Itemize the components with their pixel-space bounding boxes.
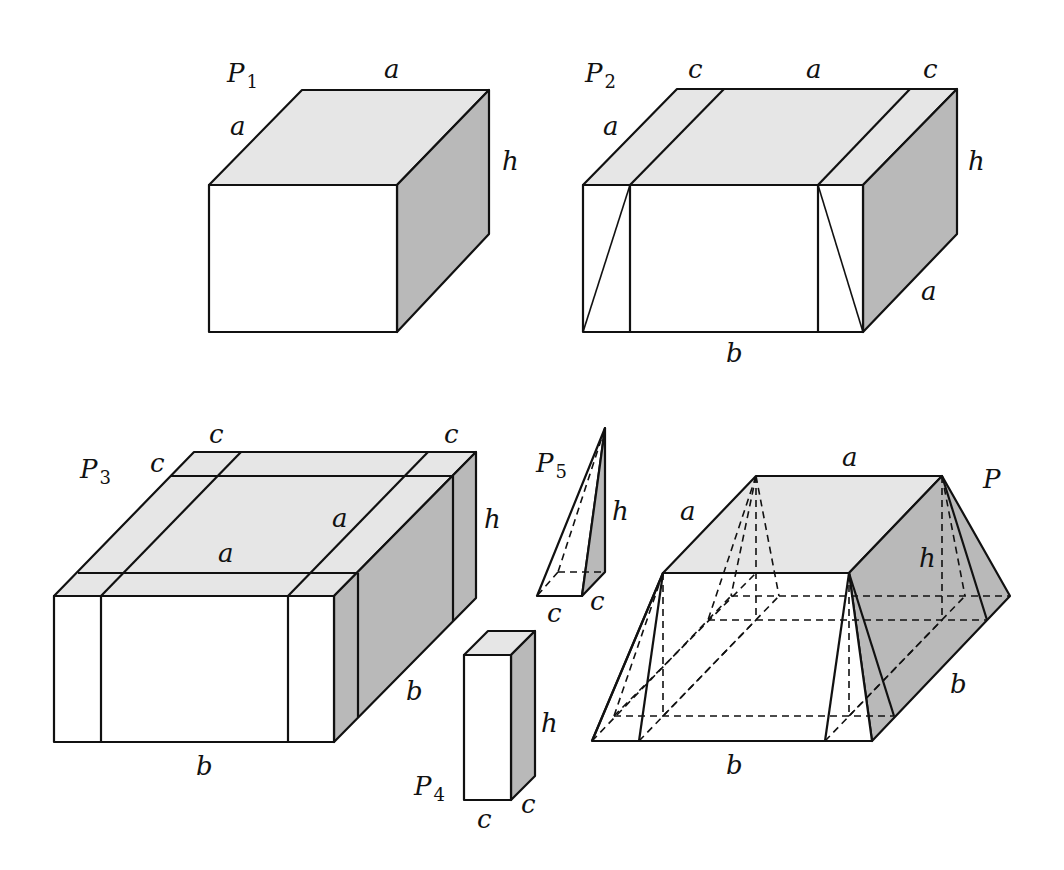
p4-front-face [464,655,511,800]
p-label-depth: b [950,669,967,699]
p5-label-depth: c [590,586,605,616]
p3-label-c-top-left: c [209,419,224,449]
p-label-bottom: b [726,750,743,780]
p-label-top-left: a [680,496,696,526]
p2-label-c-left: c [688,54,703,84]
figure-p4: P4 h c c [413,631,558,834]
p2-label-depth: a [921,276,937,306]
p1-name: P1 [226,58,258,92]
p3-name: P3 [79,454,111,488]
figure-p5: P5 h c c [535,428,629,628]
p-name: P [982,464,1001,494]
figure-p2: P2 c a c a h a b [583,54,985,368]
p3-label-a-middle: a [218,538,234,568]
p2-label-bottom: b [726,338,743,368]
p-label-height: h [919,543,936,573]
p5-label-bottom: c [547,598,562,628]
p4-label-bottom: c [477,804,492,834]
p3-label-depth: b [406,676,423,706]
p4-name: P4 [413,771,445,805]
p5-name: P5 [535,448,567,482]
p2-label-a-left: a [603,111,619,141]
p1-front-face [209,185,397,332]
figure-p1: P1 a a h [209,54,519,332]
p3-label-a-right: a [332,503,348,533]
p4-right-face [511,631,535,800]
p-label-top-back: a [842,442,858,472]
p5-label-height: h [612,496,629,526]
p3-front-face [54,596,334,742]
p3-label-height: h [484,504,501,534]
p2-label-c-right: c [923,54,938,84]
p2-label-a-top: a [806,54,822,84]
p3-label-bottom: b [196,751,213,781]
figure-p: a a P h b b [592,442,1010,780]
p2-label-height: h [968,146,985,176]
p3-label-c-left: c [150,448,165,478]
p1-label-top-back: a [384,54,400,84]
p1-label-height: h [502,146,519,176]
p2-name: P2 [584,58,616,92]
p4-label-height: h [541,708,558,738]
figure-p3: P3 c c c a a h b b [54,419,501,781]
p2-front-face [583,185,863,332]
p3-label-c-top-right: c [444,419,459,449]
polyhedra-decomposition-diagram: P1 a a h P2 c a c a h a b P3 [0,0,1064,870]
p4-label-depth: c [521,789,536,819]
p1-label-top-left: a [230,111,246,141]
